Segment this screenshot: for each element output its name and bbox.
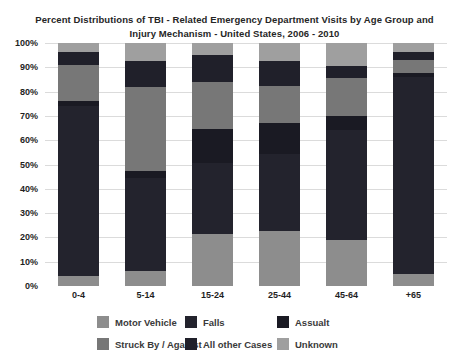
bar-segment (58, 276, 99, 286)
bar-segment (259, 154, 300, 232)
y-tick-label: 50% (0, 160, 38, 170)
x-tick-label: 5-14 (112, 290, 179, 300)
x-axis: 0-45-1415-2425-4445-64+65 (45, 290, 447, 300)
legend-item: Motor Vehicle (97, 316, 185, 328)
legend-item: Struck By / Against (97, 338, 185, 350)
bar-segment (58, 106, 99, 276)
bar-segment (125, 271, 166, 286)
chart-title-line2: Injury Mechanism - United States, 2006 -… (30, 27, 439, 41)
legend-label: Falls (203, 317, 225, 328)
stacked-bar-5-14 (125, 43, 166, 286)
x-tick-label: 25-44 (246, 290, 313, 300)
y-tick-label: 100% (0, 38, 38, 48)
bar-segment (125, 171, 166, 178)
bar-segment (326, 66, 367, 78)
y-tick-label: 90% (0, 62, 38, 72)
x-tick-label: 0-4 (45, 290, 112, 300)
y-tick-label: 80% (0, 87, 38, 97)
x-tick-label: +65 (380, 290, 447, 300)
bar-segment (125, 61, 166, 87)
stacked-bar-45-64 (326, 43, 367, 286)
y-axis: 100%90%80%70%60%50%40%30%20%10%0% (0, 43, 41, 286)
chart-title-line1: Percent Distributions of TBI - Related E… (30, 13, 439, 27)
y-tick-label: 10% (0, 257, 38, 267)
bar-segment (192, 43, 233, 55)
bar-slot-45-64 (313, 43, 380, 286)
legend-swatch-icon (97, 338, 109, 350)
y-tick-label: 40% (0, 184, 38, 194)
y-tick-label: 20% (0, 232, 38, 242)
bar-segment (393, 52, 434, 61)
bar-segment (192, 129, 233, 163)
legend-label: All other Cases (203, 339, 272, 350)
bar-segment (192, 163, 233, 233)
legend-item: Unknown (277, 338, 338, 350)
legend-swatch-icon (277, 316, 289, 328)
bar-segment (393, 77, 434, 274)
bar-segment (58, 43, 99, 52)
bar-segment (326, 78, 367, 116)
bar-segment (58, 65, 99, 101)
y-tick-label: 30% (0, 208, 38, 218)
bar-slot-+65 (380, 43, 447, 286)
bar-segment (125, 87, 166, 171)
legend-item: All other Cases (185, 338, 277, 350)
bar-segment (259, 43, 300, 61)
legend-swatch-icon (185, 316, 197, 328)
legend: Motor VehicleFallsAssualtStruck By / Aga… (97, 311, 338, 355)
bar-segment (58, 52, 99, 65)
stacked-bar-0-4 (58, 43, 99, 286)
bar-slot-25-44 (246, 43, 313, 286)
bar-segment (326, 116, 367, 131)
bar-segment (259, 61, 300, 85)
plot-area (45, 43, 447, 286)
y-tick-label: 60% (0, 135, 38, 145)
bar-segment (192, 55, 233, 82)
legend-label: Motor Vehicle (115, 317, 177, 328)
x-tick-label: 15-24 (179, 290, 246, 300)
y-tick-label: 70% (0, 111, 38, 121)
bar-slot-0-4 (45, 43, 112, 286)
bar-slot-5-14 (112, 43, 179, 286)
tbi-ed-visits-figure: Percent Distributions of TBI - Related E… (0, 0, 459, 364)
legend-item: Assualt (277, 316, 329, 328)
bar-segment (259, 123, 300, 153)
legend-label: Assualt (295, 317, 329, 328)
bar-segment (326, 240, 367, 286)
legend-swatch-icon (97, 316, 109, 328)
bar-segment (393, 43, 434, 52)
bar-segment (125, 43, 166, 61)
bar-segment (393, 274, 434, 286)
bar-segment (326, 43, 367, 66)
chart-title: Percent Distributions of TBI - Related E… (30, 13, 439, 42)
bar-slot-15-24 (179, 43, 246, 286)
bar-segment (326, 130, 367, 239)
legend-swatch-icon (185, 338, 197, 350)
bar-segment (259, 231, 300, 286)
y-tick-label: 0% (0, 281, 38, 291)
stacked-bar-15-24 (192, 43, 233, 286)
bar-segment (192, 82, 233, 129)
bar-segment (259, 86, 300, 124)
legend-swatch-icon (277, 338, 289, 350)
bars-container (45, 43, 447, 286)
x-tick-label: 45-64 (313, 290, 380, 300)
bar-segment (192, 234, 233, 286)
legend-row: Motor VehicleFallsAssualt (97, 311, 338, 333)
legend-item: Falls (185, 316, 277, 328)
stacked-bar-+65 (393, 43, 434, 286)
bar-segment (125, 178, 166, 272)
stacked-bar-25-44 (259, 43, 300, 286)
bar-segment (393, 60, 434, 73)
legend-label: Unknown (295, 339, 338, 350)
legend-row: Struck By / AgainstAll other CasesUnknow… (97, 333, 338, 355)
